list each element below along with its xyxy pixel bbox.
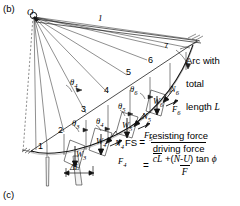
force-subscript: 4 — [121, 143, 124, 150]
arc-note-line-2: total — [186, 78, 220, 90]
radius-line-1 — [34, 17, 47, 145]
delta-l-label: ΔL — [70, 164, 79, 172]
arc-note-line-3: length L — [186, 101, 220, 114]
center-point-label: O — [27, 8, 34, 17]
angle-label-theta3: θ3 — [72, 119, 79, 130]
slice-number-5: 5 — [126, 68, 131, 77]
angle-label-theta4-upper: θ4 — [70, 78, 77, 89]
panel-tag-c: (c) — [3, 190, 14, 200]
factor-of-safety-equation: FS = resisting force driving force = cL … — [125, 131, 219, 177]
numerator-mid: +( — [162, 153, 173, 164]
force-label-N4: N4 — [115, 139, 124, 150]
slice-number-7: 7 — [164, 42, 168, 50]
ground-surface-line — [35, 19, 201, 43]
force-label-W6: W6 — [153, 97, 163, 108]
radius-line-2 — [34, 17, 64, 132]
equation-denominator-2: F — [180, 165, 190, 177]
angle-theta-subscript: 4 — [100, 121, 103, 128]
force-subscript: 6 — [176, 89, 179, 96]
force-label-W4: W4 — [96, 137, 106, 148]
equation-equals-2: = — [143, 160, 151, 171]
arc-note: Arc with total length L — [186, 43, 220, 125]
angle-theta-subscript: 3 — [76, 123, 79, 130]
cohesion-term: cL — [153, 153, 163, 164]
angle-theta-subscript: 5 — [122, 106, 125, 113]
force-label-N6: N6 — [170, 85, 179, 96]
radius-line-top — [34, 17, 197, 40]
arc-note-length-text: length — [186, 101, 215, 112]
arc-note-line-1: Arc with — [186, 55, 220, 67]
toe-ground-hatch — [22, 148, 34, 154]
equation-fraction-2: cL +(N-U) tan ϕ F — [151, 153, 219, 177]
force-label-N5: N5 — [142, 112, 151, 123]
force-subscript: 5 — [148, 116, 151, 123]
angle-arc-theta6 — [140, 93, 145, 99]
angle-label-theta5: θ5 — [118, 102, 125, 113]
force-label-W3: W3 — [76, 150, 86, 161]
slope-stability-figure: (b) (c) O 1 1 2 3 4 5 6 7 θ4 θ3 θ4 θ5 θ6… — [0, 0, 240, 206]
force-subscript: 4 — [103, 141, 106, 148]
slice-number-1: 1 — [38, 142, 43, 151]
force-subscript: 6 — [160, 101, 163, 108]
equation-denominator-1: driving force — [151, 142, 207, 154]
equation-lhs: FS — [125, 137, 139, 148]
equation-numerator-2: cL +(N-U) tan ϕ — [151, 153, 219, 165]
angle-label-theta6: θ6 — [130, 85, 137, 96]
angle-theta-subscript: 4 — [74, 82, 77, 89]
force-subscript: 6 — [177, 109, 180, 116]
angle-label-theta4: θ4 — [96, 117, 103, 128]
equation-equals-1: = — [139, 137, 147, 148]
radius-line-3 — [34, 17, 86, 113]
equation-numerator-1: resisting force — [147, 131, 210, 142]
slice-number-2: 2 — [58, 126, 63, 135]
radius-line-0 — [34, 17, 36, 150]
slice-number-6: 6 — [148, 56, 153, 65]
panel-tag-b: (b) — [3, 4, 15, 14]
radius-line-5 — [34, 17, 147, 60]
force-label-F6: F6 — [172, 105, 180, 116]
dashed-radius-line — [23, 17, 33, 152]
numerator-tail: ) tan — [190, 153, 212, 164]
friction-angle-phi: ϕ — [212, 154, 217, 164]
arc-length-symbol: L — [215, 102, 220, 112]
radius-line-4b — [34, 17, 127, 75]
equation-row-1: FS = resisting force driving force — [125, 131, 219, 153]
radius-length-label: 1 — [98, 14, 103, 23]
pointer-bar-left — [46, 157, 49, 186]
slice-number-4: 4 — [104, 86, 109, 95]
equation-fraction-1: resisting force driving force — [147, 131, 210, 154]
force-subscript: 3 — [83, 154, 86, 161]
angle-theta-subscript: 6 — [134, 89, 137, 96]
equation-row-2: = cL +(N-U) tan ϕ F — [143, 153, 219, 177]
angle-tick-arrows — [76, 88, 153, 132]
slice-number-3: 3 — [81, 105, 86, 114]
